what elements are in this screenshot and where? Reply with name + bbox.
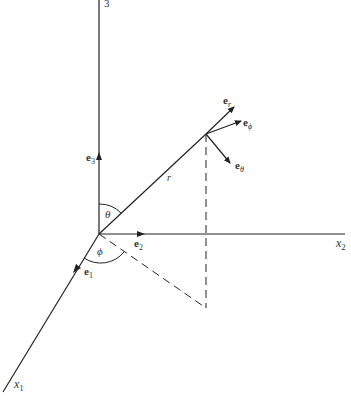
theta-label: θ [105, 208, 111, 220]
radius-line [99, 134, 206, 234]
ephi-label: eϕ [243, 116, 252, 131]
e2-label: e2 [134, 237, 143, 252]
x3-axis-label: 3 [104, 0, 110, 9]
e3-label: e3 [86, 151, 95, 166]
spherical-coordinates-diagram: 3 x2 x1 e3 e2 e1 r θ ϕ er eϕ eθ [0, 0, 351, 404]
phi-arc [84, 252, 124, 263]
er-label: er [223, 94, 232, 109]
etheta-label: eθ [235, 159, 244, 174]
x2-axis-label: x2 [335, 236, 346, 252]
radius-label: r [167, 172, 171, 183]
x1-axis-label: x1 [13, 377, 24, 393]
x1-axis [3, 234, 99, 392]
e3-arrowhead-icon [96, 152, 102, 160]
phi-label: ϕ [97, 245, 103, 257]
ephi-vector [206, 121, 241, 134]
etheta-vector [206, 134, 230, 163]
er-vector [206, 107, 234, 134]
projection-horizontal-dashed [99, 234, 206, 308]
e1-label: e1 [84, 265, 93, 280]
